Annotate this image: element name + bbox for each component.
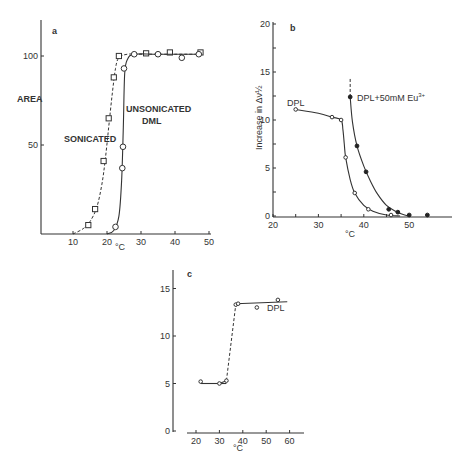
open-circle-marker [199, 380, 203, 384]
square-marker [116, 53, 121, 58]
open-circle-marker [353, 191, 357, 195]
square-marker [101, 158, 106, 163]
square-marker [111, 75, 116, 80]
x-tick-label: 40 [170, 237, 180, 247]
panel-c-chart: 2030405060051015 c °C DPL [160, 269, 304, 453]
x-tick-label: 50 [404, 220, 414, 230]
panel-b-letter: b [290, 23, 296, 33]
y-tick-label: 0 [165, 426, 170, 436]
panel-c-letter: c [187, 269, 192, 279]
filled-circle-marker [407, 213, 411, 217]
x-tick-label: 20 [102, 237, 112, 247]
open-circle-marker [367, 207, 371, 211]
open-circle-marker [131, 51, 137, 57]
x-tick-label: 50 [204, 237, 214, 247]
filled-circle-marker [396, 210, 400, 214]
panel-b-dpl-label: DPL [287, 98, 305, 108]
y-tick-label: 5 [165, 379, 170, 389]
open-circle-marker [225, 379, 229, 383]
open-circle-marker [344, 156, 348, 160]
y-tick-label: 20 [260, 19, 270, 29]
filled-circle-marker [355, 144, 359, 148]
panel-a-sonicated-label: SONICATED [64, 134, 117, 144]
x-tick-label: 20 [268, 220, 278, 230]
panel-a-letter: a [52, 26, 58, 36]
y-tick-label: 5 [265, 163, 270, 173]
open-circle-marker [218, 382, 222, 386]
open-circle-marker [121, 66, 127, 72]
y-tick-label: 10 [160, 331, 170, 341]
open-circle-marker [120, 144, 126, 150]
panel-c-dpl-label: DPL [267, 303, 285, 313]
open-circle-marker [330, 115, 334, 119]
open-circle-marker [236, 302, 240, 306]
panel-b-y-label: Increase in Δν½ [254, 85, 264, 150]
dpl-segment [226, 305, 235, 381]
panel-a-chart: 102030405050100 a AREA °C SONICATED UNSO… [17, 20, 214, 252]
open-circle-marker [196, 51, 202, 57]
open-circle-marker [113, 224, 119, 230]
open-circle-marker [294, 108, 298, 112]
x-tick-label: 30 [136, 237, 146, 247]
open-circle-marker [179, 55, 185, 61]
x-tick-label: 60 [285, 436, 295, 446]
panel-b-x-label: °C [345, 229, 356, 239]
y-tick-label: 100 [23, 51, 38, 61]
x-tick-label: 30 [214, 436, 224, 446]
y-tick-label: 50 [28, 140, 38, 150]
open-circle-marker [389, 213, 393, 217]
open-circle-marker [120, 165, 126, 171]
open-circle-marker [339, 118, 343, 122]
y-tick-label: 15 [160, 284, 170, 294]
open-circle-marker [255, 306, 259, 310]
eu-curve [350, 97, 409, 216]
y-tick-label: 0 [265, 211, 270, 221]
x-tick-label: 10 [68, 237, 78, 247]
panel-a-dml-label: DML [142, 116, 162, 126]
open-circle-marker [276, 298, 280, 302]
panel-b-ticks: 2030405005101520 [260, 19, 414, 230]
figure-canvas: 102030405050100 a AREA °C SONICATED UNSO… [0, 0, 464, 463]
panel-c-x-label: °C [233, 443, 244, 453]
panel-a-x-label: °C [115, 242, 126, 252]
square-marker [144, 51, 149, 56]
square-marker [86, 223, 91, 228]
filled-circle-marker [348, 95, 352, 99]
panel-a-unsonicated-label: UNSONICATED [126, 104, 192, 114]
x-tick-label: 20 [191, 436, 201, 446]
y-tick-label: 15 [260, 67, 270, 77]
x-tick-label: 40 [359, 220, 369, 230]
panel-b-eu-label: DPL+50mM Eu3+ [357, 92, 426, 103]
filled-circle-marker [364, 170, 368, 174]
unsonicated-curve [107, 54, 202, 234]
dpl-curve [296, 109, 400, 216]
x-tick-label: 30 [313, 220, 323, 230]
filled-circle-marker [425, 213, 429, 217]
square-marker [93, 206, 98, 211]
square-marker [106, 116, 111, 121]
panel-a-y-label: AREA [17, 94, 43, 104]
filled-circle-marker [387, 207, 391, 211]
panel-b-chart: 2030405005101520 b Increase in Δν½ °C DP… [254, 19, 452, 239]
open-circle-marker [155, 51, 161, 57]
x-tick-label: 50 [261, 436, 271, 446]
